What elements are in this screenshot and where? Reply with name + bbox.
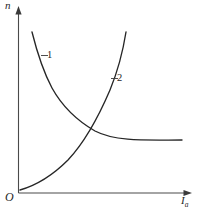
curve-2-path [20, 32, 126, 190]
x-axis-label: Ia [181, 195, 188, 209]
origin-label: O [5, 191, 14, 203]
y-axis-label: n [5, 0, 11, 11]
curve-1-path [32, 32, 182, 140]
y-axis-arrowhead [15, 6, 21, 15]
curve-2-label: 2 [117, 73, 122, 84]
chart-figure: n Ia O 1 2 [0, 0, 202, 213]
curve-1-label: 1 [47, 50, 52, 61]
x-axis-label-subscript: a [185, 200, 189, 209]
plot-canvas [0, 0, 202, 213]
